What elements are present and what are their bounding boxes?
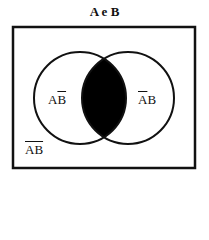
label-not-a-b: AB [138, 93, 156, 106]
label-not-a-not-b: AB [25, 143, 43, 156]
label-a-not-b: AB [48, 93, 66, 106]
